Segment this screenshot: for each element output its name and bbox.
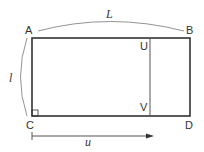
label-b: B (186, 24, 193, 36)
right-angle-marker (32, 110, 38, 116)
length-arc (38, 22, 184, 32)
arrow-head-icon (146, 134, 154, 139)
width-arc (21, 38, 28, 116)
label-length: L (105, 7, 113, 21)
label-c: C (26, 119, 34, 131)
label-v: V (140, 101, 148, 113)
label-u: U (140, 40, 148, 52)
label-width: l (9, 71, 13, 85)
rectangle-abcd (32, 38, 190, 116)
label-a: A (25, 24, 33, 36)
label-d: D (185, 119, 193, 131)
rectangle-diagram: A B C D U V L l u (0, 0, 204, 152)
label-displacement: u (85, 135, 91, 149)
